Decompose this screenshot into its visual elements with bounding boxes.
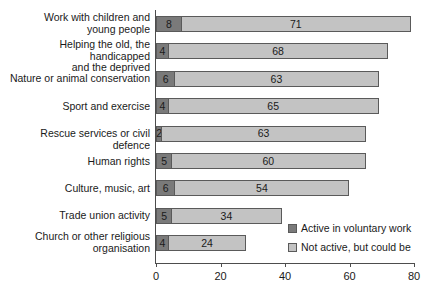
bar-value-label: 5 [161,156,167,167]
chart-row: Nature or animal conservation663 [0,71,433,87]
bar-segment-potential: 63 [161,126,365,142]
bar-segment-potential: 54 [174,180,349,196]
legend-item: Active in voluntary work [288,220,411,236]
bar-value-label: 54 [256,183,268,194]
bar-segment-potential: 65 [168,98,379,114]
bar-segment-potential: 34 [171,208,282,224]
bar-value-label: 4 [160,101,166,112]
bar-value-label: 6 [163,74,169,85]
x-tick-label: 40 [279,270,291,282]
stacked-bar: 263 [156,126,366,142]
chart-title [0,0,433,7]
chart-row: Sport and exercise465 [0,98,433,114]
chart-row: Work with children and young people871 [0,16,433,32]
x-tick [285,263,286,267]
bar-value-label: 4 [160,46,166,57]
stacked-bar: 663 [156,71,379,87]
x-tick [350,263,351,267]
bar-segment-potential: 60 [171,153,366,169]
chart-row: Rescue services or civil defence263 [0,126,433,142]
bar-segment-active: 5 [156,153,172,169]
category-label: Sport and exercise [2,101,150,113]
bar-value-label: 60 [263,156,275,167]
bar-value-label: 8 [166,19,172,30]
bar-segment-active: 8 [156,16,182,32]
stacked-bar-chart: 020406080 Work with children and young p… [0,0,433,302]
stacked-bar: 424 [156,235,246,251]
stacked-bar: 560 [156,153,366,169]
legend-swatch-icon [288,224,297,233]
x-tick [156,263,157,267]
x-tick-label: 60 [343,270,355,282]
category-label: Human rights [2,156,150,168]
chart-row: Culture, music, art654 [0,180,433,196]
bar-segment-potential: 24 [168,235,246,251]
bar-value-label: 6 [163,183,169,194]
bar-value-label: 4 [160,238,166,249]
chart-legend: Active in voluntary workNot active, but … [288,220,411,258]
bar-segment-potential: 71 [181,16,411,32]
legend-label: Not active, but could be [301,241,411,253]
legend-label: Active in voluntary work [301,222,411,234]
bar-value-label: 65 [267,101,279,112]
stacked-bar: 468 [156,43,388,59]
bar-value-label: 24 [201,238,213,249]
stacked-bar: 871 [156,16,411,32]
category-label: Culture, music, art [2,183,150,195]
stacked-bar: 654 [156,180,349,196]
x-tick-label: 0 [153,270,159,282]
bar-segment-potential: 63 [174,71,378,87]
category-label: Nature or animal conservation [2,73,150,85]
x-tick [221,263,222,267]
category-label: Trade union activity [2,210,150,222]
bar-value-label: 63 [271,74,283,85]
category-label: Work with children and young people [2,12,150,35]
bar-value-label: 71 [290,19,302,30]
legend-item: Not active, but could be [288,239,411,255]
category-label: Helping the old, the handicapped and the… [2,39,150,74]
category-label: Church or other religious organisation [2,231,150,254]
chart-row: Human rights560 [0,153,433,169]
category-label: Rescue services or civil defence [2,128,150,151]
bar-segment-active: 6 [156,71,175,87]
bar-segment-active: 5 [156,208,172,224]
bar-value-label: 63 [258,128,270,139]
bar-segment-active: 6 [156,180,175,196]
bar-value-label: 5 [161,211,167,222]
bar-segment-potential: 68 [168,43,388,59]
legend-swatch-icon [288,243,297,252]
chart-row: Helping the old, the handicapped and the… [0,43,433,59]
bar-value-label: 68 [272,46,284,57]
stacked-bar: 534 [156,208,282,224]
bar-value-label: 34 [221,211,233,222]
x-tick [414,263,415,267]
x-tick-label: 80 [408,270,420,282]
stacked-bar: 465 [156,98,379,114]
x-tick-label: 20 [214,270,226,282]
